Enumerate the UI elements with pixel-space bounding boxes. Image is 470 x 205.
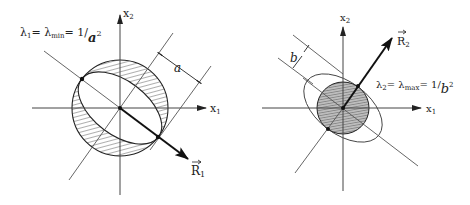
left-ellipse-point-upper — [80, 77, 84, 81]
right-x1-label: x1 — [426, 103, 436, 116]
right-eigenvalue-equation: λ2= λmax= 1/b2 — [376, 79, 454, 96]
right-center-point — [341, 106, 345, 110]
diagram-canvas: x1 x2 a R1 λ1= λmin= 1/a2 x1 x2 b R2 λ — [0, 0, 470, 205]
right-vector-overarrow — [398, 30, 406, 34]
left-vector-label: R1 — [191, 164, 205, 179]
left-diagram: x1 x2 a R1 λ1= λmin= 1/a2 — [20, 7, 221, 195]
right-dimension-label: b — [290, 51, 298, 65]
left-x2-label: x2 — [123, 7, 134, 21]
right-x2-label: x2 — [340, 12, 350, 25]
left-x1-label: x1 — [210, 102, 221, 116]
right-diagram: x1 x2 b R2 λ2= λmax= 1/b2 — [262, 12, 454, 191]
right-circle-point-lower — [326, 127, 330, 131]
right-vector-r2 — [343, 38, 392, 108]
left-eigenvalue-equation: λ1= λmin= 1/a2 — [20, 26, 101, 45]
left-ellipse-point-lower — [156, 135, 160, 139]
right-circle-point-upper — [356, 84, 360, 88]
right-vector-label: R2 — [397, 35, 410, 49]
left-center-point — [118, 106, 122, 110]
right-tangent-line-outer — [293, 35, 343, 74]
left-dimension-label: a — [174, 61, 181, 75]
